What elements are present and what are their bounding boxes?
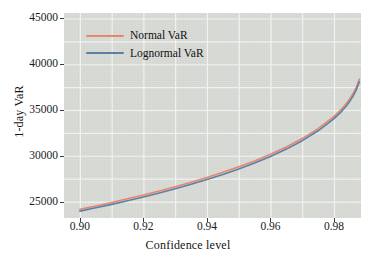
y-tick-label: 40000 [29, 58, 58, 70]
x-axis-tick-labels: 0.900.920.940.960.98 [0, 221, 376, 237]
y-tick-mark [60, 64, 64, 65]
y-tick-mark [60, 202, 64, 203]
y-tick-label: 30000 [29, 150, 58, 162]
x-tick-mark [334, 218, 335, 222]
x-tick-label: 0.94 [197, 221, 217, 233]
y-tick-label: 25000 [29, 196, 58, 208]
x-tick-label: 0.96 [260, 221, 280, 233]
var-confidence-chart: 2500030000350004000045000 0.900.920.940.… [0, 0, 376, 262]
y-tick-mark [60, 110, 64, 111]
y-tick-mark [60, 18, 64, 19]
legend-item: Lognormal VaR [86, 48, 204, 60]
legend-label: Normal VaR [130, 30, 188, 42]
x-tick-mark [270, 218, 271, 222]
x-tick-mark [207, 218, 208, 222]
x-tick-mark [80, 218, 81, 222]
chart-legend: Normal VaRLognormal VaR [86, 30, 204, 59]
x-tick-label: 0.92 [133, 221, 153, 233]
x-tick-label: 0.98 [324, 221, 344, 233]
x-tick-label: 0.90 [70, 221, 90, 233]
series-line [80, 82, 360, 211]
legend-label: Lognormal VaR [130, 48, 204, 60]
x-axis-label: Confidence level [0, 238, 376, 253]
legend-item: Normal VaR [86, 30, 204, 42]
x-tick-mark [143, 218, 144, 222]
y-tick-label: 45000 [29, 12, 58, 24]
legend-color-swatch [86, 35, 124, 37]
y-axis-label: 1-day VaR [12, 57, 27, 167]
y-tick-mark [60, 156, 64, 157]
series-line [80, 79, 360, 209]
y-tick-label: 35000 [29, 104, 58, 116]
legend-color-swatch [86, 52, 124, 54]
